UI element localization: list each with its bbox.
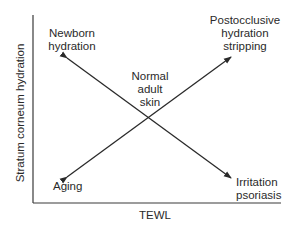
label-postocclusive-hydration-stripping: Postocclusive hydration stripping [195, 14, 295, 53]
label-newborn-hydration: Newborn hydration [42, 27, 102, 53]
label-irritation-psoriasis: Irritation psoriasis [236, 176, 281, 202]
skin-hydration-diagram: Stratum corneum hydration TEWL Newborn h… [0, 0, 297, 229]
y-axis-label: Stratum corneum hydration [14, 44, 26, 183]
x-axis-label: TEWL [139, 209, 171, 221]
label-aging: Aging [53, 180, 82, 193]
label-normal-adult-skin: Normal adult skin [124, 70, 176, 109]
